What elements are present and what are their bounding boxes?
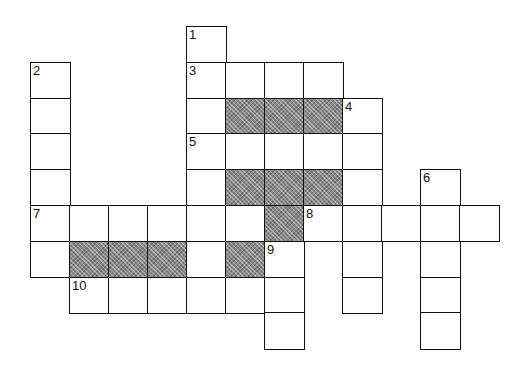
shaded-cell	[264, 98, 305, 135]
clue-number: 6	[423, 171, 430, 184]
shaded-cell	[303, 98, 344, 135]
shaded-cell	[225, 98, 266, 135]
grid-cell[interactable]	[342, 169, 383, 206]
grid-cell[interactable]	[225, 62, 266, 99]
grid-cell[interactable]	[264, 62, 305, 99]
grid-cell[interactable]	[108, 277, 149, 314]
grid-cell[interactable]	[264, 133, 305, 170]
grid-cell[interactable]	[186, 277, 227, 314]
grid-cell[interactable]	[30, 133, 71, 170]
grid-cell[interactable]	[342, 241, 383, 278]
grid-cell[interactable]	[30, 98, 71, 135]
grid-cell[interactable]: 7	[30, 205, 71, 242]
grid-cell[interactable]	[342, 277, 383, 314]
clue-number: 8	[306, 207, 313, 220]
grid-cell[interactable]	[30, 169, 71, 206]
grid-cell[interactable]	[342, 205, 383, 242]
grid-cell[interactable]	[225, 133, 266, 170]
grid-cell[interactable]	[303, 133, 344, 170]
clue-number: 2	[33, 64, 40, 77]
grid-cell[interactable]	[420, 205, 461, 242]
clue-number: 9	[267, 243, 274, 256]
grid-cell[interactable]	[264, 312, 305, 349]
grid-cell[interactable]	[69, 205, 110, 242]
grid-cell[interactable]	[303, 62, 344, 99]
grid-cell[interactable]: 2	[30, 62, 71, 99]
grid-cell[interactable]: 9	[264, 241, 305, 278]
grid-cell[interactable]	[420, 241, 461, 278]
shaded-cell	[264, 205, 305, 242]
clue-number: 7	[33, 207, 40, 220]
grid-cell[interactable]	[108, 205, 149, 242]
clue-number: 4	[345, 100, 352, 113]
grid-cell[interactable]	[420, 277, 461, 314]
grid-cell[interactable]	[186, 205, 227, 242]
crossword-grid: 12345678910	[0, 0, 529, 371]
shaded-cell	[147, 241, 188, 278]
grid-cell[interactable]	[147, 205, 188, 242]
clue-number: 10	[72, 279, 86, 292]
grid-cell[interactable]: 1	[186, 26, 227, 63]
grid-cell[interactable]: 8	[303, 205, 344, 242]
grid-cell[interactable]	[264, 277, 305, 314]
grid-cell[interactable]: 3	[186, 62, 227, 99]
shaded-cell	[303, 169, 344, 206]
grid-cell[interactable]: 10	[69, 277, 110, 314]
grid-cell[interactable]	[225, 205, 266, 242]
shaded-cell	[264, 169, 305, 206]
shaded-cell	[225, 241, 266, 278]
grid-cell[interactable]	[186, 169, 227, 206]
grid-cell[interactable]	[30, 241, 71, 278]
grid-cell[interactable]: 6	[420, 169, 461, 206]
grid-cell[interactable]	[186, 98, 227, 135]
grid-cell[interactable]	[420, 312, 461, 349]
grid-cell[interactable]: 5	[186, 133, 227, 170]
clue-number: 5	[189, 135, 196, 148]
grid-cell[interactable]	[147, 277, 188, 314]
grid-cell[interactable]: 4	[342, 98, 383, 135]
grid-cell[interactable]	[186, 241, 227, 278]
grid-cell[interactable]	[459, 205, 500, 242]
grid-cell[interactable]	[342, 133, 383, 170]
grid-cell[interactable]	[381, 205, 422, 242]
shaded-cell	[108, 241, 149, 278]
clue-number: 3	[189, 64, 196, 77]
clue-number: 1	[189, 28, 196, 41]
shaded-cell	[69, 241, 110, 278]
grid-cell[interactable]	[225, 277, 266, 314]
shaded-cell	[225, 169, 266, 206]
